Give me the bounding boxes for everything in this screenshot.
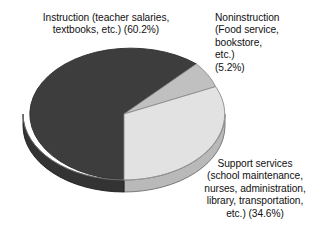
pie-chart: Instruction (teacher salaries, textbooks…: [0, 0, 329, 240]
label-support: Support services (school maintenance, nu…: [182, 158, 328, 220]
label-instruction: Instruction (teacher salaries, textbooks…: [16, 12, 196, 37]
label-noninstruction: Noninstruction (Food service, bookstore,…: [215, 12, 327, 74]
